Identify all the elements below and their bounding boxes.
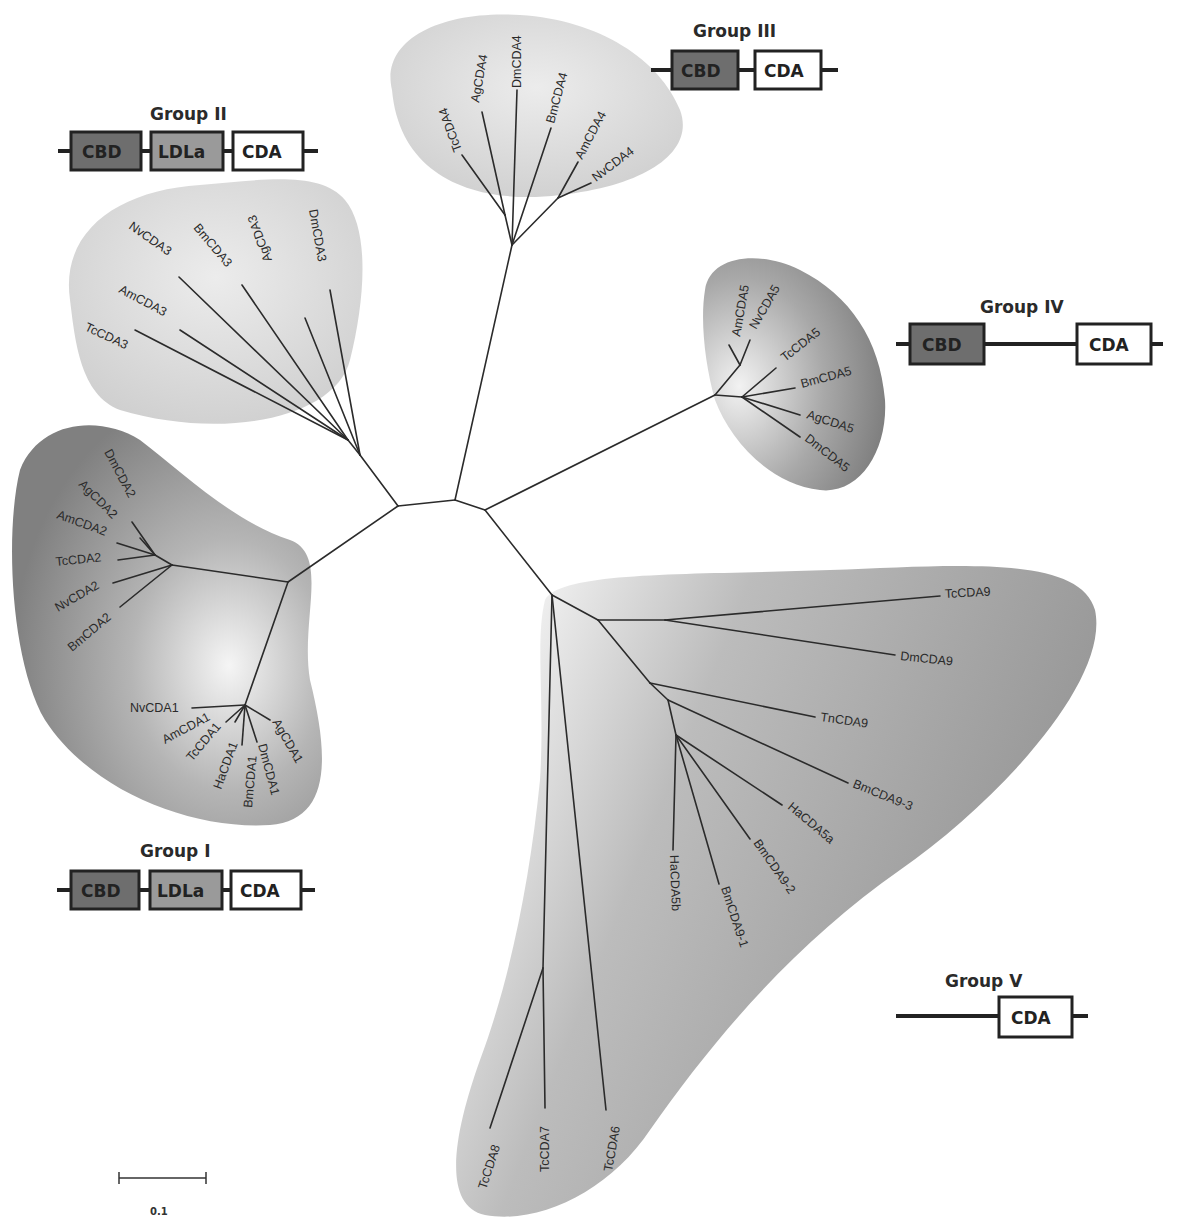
legend-group-iv-domain-cda: CDA <box>1089 335 1130 355</box>
phylogenetic-tree-figure: TcCDA4 AgCDA4 DmCDA4 BmCDA4 AmCDA4 NvCDA… <box>0 0 1184 1228</box>
cluster-group-v <box>456 566 1096 1217</box>
legend-group-i-title: Group I <box>140 841 211 861</box>
legend-group-v: Group V CDA <box>896 971 1088 1037</box>
legend-group-i: Group I CBD LDLa CDA <box>57 841 315 909</box>
legend-group-iv-title: Group IV <box>980 297 1065 317</box>
legend-group-iii: Group III CBD CDA <box>651 21 838 89</box>
legend-group-i-domain-cda: CDA <box>240 881 281 901</box>
legend-group-ii-domain-cbd: CBD <box>82 142 122 162</box>
legend-group-iv: Group IV CBD CDA <box>896 297 1163 364</box>
leaf-label-nvcda1: NvCDA1 <box>130 701 179 715</box>
leaf-label-tccda7: TcCDA7 <box>538 1126 552 1172</box>
legend-group-iv-domain-cbd: CBD <box>922 335 962 355</box>
leaf-label-tccda9: TcCDA9 <box>944 585 991 601</box>
scale-bar-label: 0.1 <box>150 1206 168 1217</box>
leaf-label-hacda5b: HaCDA5b <box>667 855 683 912</box>
legend-group-i-domain-cbd: CBD <box>81 881 121 901</box>
legend-group-ii-title: Group II <box>150 104 227 124</box>
legend-group-ii-domain-ldla: LDLa <box>158 142 205 162</box>
legend-group-ii: Group II CBD LDLa CDA <box>58 104 318 170</box>
leaf-label-dmcda4: DmCDA4 <box>510 35 524 88</box>
legend-group-i-domain-ldla: LDLa <box>157 881 204 901</box>
legend-group-ii-domain-cda: CDA <box>242 142 283 162</box>
legend-group-iii-domain-cbd: CBD <box>681 61 721 81</box>
legend-group-iii-title: Group III <box>693 21 776 41</box>
cluster-group-iv <box>703 258 885 490</box>
scale-bar: 0.1 <box>119 1172 206 1217</box>
legend-group-iii-domain-cda: CDA <box>764 61 805 81</box>
legend-group-v-domain-cda: CDA <box>1011 1008 1052 1028</box>
legend-group-v-title: Group V <box>945 971 1023 991</box>
